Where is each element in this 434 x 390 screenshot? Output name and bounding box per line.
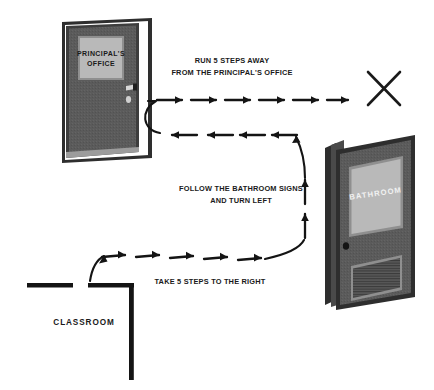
principal-sign-line1: PRINCIPAL'S [77, 50, 125, 57]
door-knob-icon [343, 242, 349, 250]
classroom-wall-vertical [129, 283, 134, 380]
instruction-take-5-steps: TAKE 5 STEPS TO THE RIGHT [154, 277, 265, 286]
bathroom-door: BATHROOM [325, 135, 415, 310]
classroom-wall-right [88, 283, 134, 288]
principal-office-door: PRINCIPAL'S OFFICE [62, 18, 152, 163]
classroom-label: CLASSROOM [53, 318, 114, 327]
diagram-canvas: PRINCIPAL'S OFFICE BATHROOM CLASSROOM [0, 0, 434, 390]
door-lock-icon [126, 96, 131, 103]
instruction-3-line1: TAKE 5 STEPS TO THE RIGHT [154, 277, 265, 286]
classroom-wall-left [27, 283, 73, 288]
instruction-2-line1: FOLLOW THE BATHROOM SIGNS [179, 184, 303, 193]
instruction-2-line2: AND TURN LEFT [210, 196, 272, 205]
door-handle-plate [133, 84, 137, 91]
principal-sign-plate [80, 38, 122, 78]
principal-sign-line2: OFFICE [87, 60, 115, 67]
instruction-1-line2: FROM THE PRINCIPAL'S OFFICE [171, 68, 292, 77]
principal-door-jamb [148, 21, 152, 155]
instruction-1-line1: RUN 5 STEPS AWAY [195, 56, 270, 65]
